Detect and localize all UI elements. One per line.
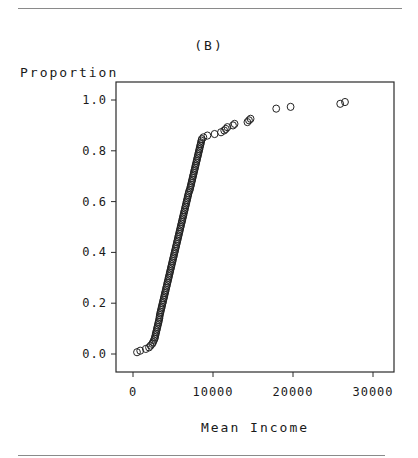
data-points (134, 98, 349, 355)
x-tick-label: 30000 (352, 385, 393, 399)
data-point-circle (287, 103, 294, 110)
data-point-circle (273, 105, 280, 112)
data-point-circle (204, 132, 211, 139)
y-tick-label: 0.2 (82, 296, 107, 310)
scatter-plot: 0.00.20.40.60.81.0 0100002000030000 (0, 0, 418, 458)
data-point-circle (231, 120, 238, 127)
x-tick-label: 20000 (272, 385, 313, 399)
x-axis-ticks: 0100002000030000 (129, 372, 394, 399)
y-tick-label: 1.0 (82, 93, 107, 107)
data-point-circle (342, 98, 349, 105)
bottom-rule (18, 455, 385, 456)
y-axis-ticks: 0.00.20.40.60.81.0 (82, 93, 116, 361)
data-point-circle (211, 130, 218, 137)
y-tick-label: 0.6 (82, 195, 107, 209)
data-point-circle (337, 100, 344, 107)
x-axis-label: Mean Income (0, 420, 418, 435)
y-tick-label: 0.0 (82, 347, 107, 361)
y-tick-label: 0.8 (82, 144, 107, 158)
x-tick-label: 10000 (192, 385, 233, 399)
x-tick-label: 0 (129, 385, 137, 399)
y-tick-label: 0.4 (82, 245, 107, 259)
